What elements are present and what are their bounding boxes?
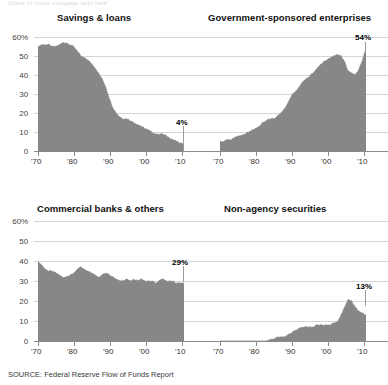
- x-tick-label: '90: [103, 347, 113, 356]
- x-tick-label: '80: [67, 347, 77, 356]
- y-tick-label: 50: [2, 237, 28, 246]
- x-tick-label: '70: [31, 347, 41, 356]
- data-label-gse: 54%: [355, 33, 371, 42]
- x-tick-label: '90: [285, 347, 295, 356]
- chart-commercial-banks: [38, 221, 184, 341]
- y-tick-label: 20: [2, 297, 28, 306]
- x-tickmark: [38, 151, 39, 156]
- callout-leader-line: [183, 266, 184, 282]
- panel-title-gse: Government-sponsored enterprises: [208, 12, 371, 23]
- data-label-commercial-banks: 29%: [172, 258, 188, 267]
- x-tick-label: '80: [67, 157, 77, 166]
- x-tick-label: '70: [213, 347, 223, 356]
- y-tick-label: 60%: [2, 33, 28, 42]
- y-tick-label: 40: [2, 71, 28, 80]
- x-tickmark: [364, 151, 365, 156]
- x-tickmark: [74, 151, 75, 156]
- panel-title-commercial-banks: Commercial banks & others: [37, 203, 164, 214]
- panel-title-non-agency: Non-agency securities: [224, 203, 326, 214]
- chart-savings-loans: [38, 37, 184, 151]
- x-tickmark: [292, 341, 293, 346]
- x-tickmark: [38, 341, 39, 346]
- x-tickmark: [292, 151, 293, 156]
- x-tickmark: [256, 151, 257, 156]
- y-tick-label: 30: [2, 90, 28, 99]
- x-tick-label: '10: [175, 347, 185, 356]
- y-tick-label: 10: [2, 128, 28, 137]
- x-tick-label: '00: [139, 157, 149, 166]
- x-tick-label: '10: [357, 157, 367, 166]
- x-tick-label: '10: [357, 347, 367, 356]
- x-tickmark: [328, 151, 329, 156]
- axis-baseline: [34, 151, 388, 152]
- x-tickmark: [182, 341, 183, 346]
- x-tickmark: [364, 341, 365, 346]
- x-tick-label: '90: [285, 157, 295, 166]
- x-tickmark: [256, 341, 257, 346]
- x-tickmark: [328, 341, 329, 346]
- x-tick-label: '10: [175, 157, 185, 166]
- y-tick-label: 0: [2, 337, 28, 346]
- x-tickmark: [110, 341, 111, 346]
- chart-non-agency: [220, 221, 366, 341]
- chart-kicker: Share of home mortgage debt held: [8, 0, 107, 6]
- x-tick-label: '70: [31, 157, 41, 166]
- x-tickmark: [146, 341, 147, 346]
- y-tick-label: 20: [2, 109, 28, 118]
- x-tickmark: [220, 341, 221, 346]
- callout-leader-line: [365, 290, 366, 306]
- y-tick-label: 10: [2, 317, 28, 326]
- callout-leader-line: [365, 42, 366, 52]
- callout-leader-line: [183, 126, 184, 151]
- data-label-savings-loans: 4%: [176, 118, 188, 127]
- x-tick-label: '80: [249, 347, 259, 356]
- x-tick-label: '80: [249, 157, 259, 166]
- x-tickmark: [110, 151, 111, 156]
- y-tick-label: 50: [2, 52, 28, 61]
- axis-baseline: [34, 341, 388, 342]
- x-tick-label: '70: [213, 157, 223, 166]
- data-label-non-agency: 13%: [356, 282, 372, 291]
- x-tickmark: [182, 151, 183, 156]
- x-tickmark: [220, 151, 221, 156]
- x-tick-label: '90: [103, 157, 113, 166]
- x-tick-label: '00: [321, 157, 331, 166]
- y-tick-label: 0: [2, 147, 28, 156]
- y-tick-label: 30: [2, 277, 28, 286]
- x-tick-label: '00: [139, 347, 149, 356]
- x-tick-label: '00: [321, 347, 331, 356]
- panel-title-savings-loans: Savings & loans: [57, 12, 131, 23]
- y-tick-label: 60%: [2, 217, 28, 226]
- x-tickmark: [146, 151, 147, 156]
- y-tick-label: 40: [2, 257, 28, 266]
- x-tickmark: [74, 341, 75, 346]
- source-note: SOURCE: Federal Reserve Flow of Funds Re…: [8, 370, 173, 379]
- chart-gse: [220, 37, 366, 151]
